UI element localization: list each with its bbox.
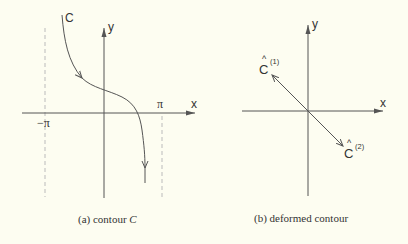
y-axis-label-a: y [108,20,114,34]
panel-a: C y x −π π [22,11,197,198]
c1-label: C [259,62,268,77]
caption-a-prefix: (a) contour [78,213,129,225]
x-axis-label-b: x [380,96,386,110]
panel-b: y x ^ C (1) ^ C (2) [242,17,386,196]
y-axis-label-b: y [312,17,318,31]
deformed-contour-c2-arrow [308,111,343,146]
caption-a: (a) contour C [78,213,137,225]
curve-c-label: C [65,11,74,25]
caption-a-var: C [129,213,136,225]
neg-pi-label: −π [37,116,50,130]
c2-superscript: (2) [355,142,365,151]
pi-label: π [157,97,163,111]
contour-c-curve-middle [82,78,145,168]
x-axis-label-a: x [191,97,197,111]
caption-b: (b) deformed contour [254,212,348,224]
figure-canvas: C y x −π π y x ^ C (1) ^ C (2) [0,0,408,244]
deformed-contour-c1-arrow [272,75,308,111]
c1-superscript: (1) [270,57,280,66]
c2-label: C [344,146,353,161]
